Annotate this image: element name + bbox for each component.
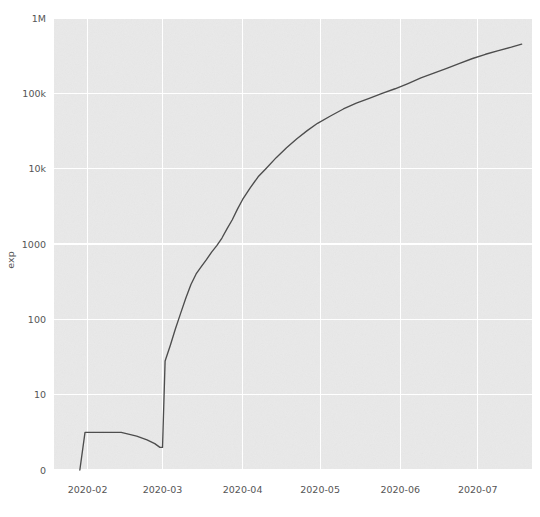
chart-canvas: 010100100010k100k1M 2020-022020-032020-0… [0,0,540,517]
y-tick-label: 1000 [22,239,46,250]
chart-figure: 010100100010k100k1M 2020-022020-032020-0… [0,0,540,517]
y-axis-tick-labels: 010100100010k100k1M [22,13,47,476]
x-tick-label: 2020-05 [300,484,340,495]
x-tick-label: 2020-06 [380,484,420,495]
y-tick-label: 10k [28,163,46,174]
x-tick-label: 2020-07 [458,484,498,495]
y-tick-label: 10 [34,389,46,400]
x-tick-label: 2020-03 [143,484,183,495]
x-tick-label: 2020-04 [223,484,263,495]
y-tick-label: 1M [32,13,46,24]
y-tick-label: 100k [22,88,46,99]
y-tick-label: 0 [40,465,46,476]
x-axis-tick-labels: 2020-022020-032020-042020-052020-062020-… [68,484,498,495]
x-tick-label: 2020-02 [68,484,108,495]
y-axis-title: exp [5,251,16,268]
y-tick-label: 100 [28,314,46,325]
